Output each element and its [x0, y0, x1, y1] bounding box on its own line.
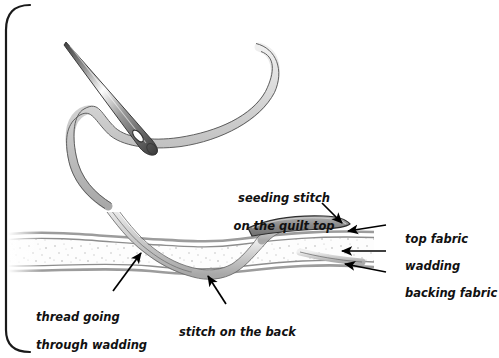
label-thread-line1: thread going	[36, 310, 120, 324]
illustration-canvas: seeding stitch on the quilt top top fabr…	[0, 0, 499, 358]
label-backing-fabric-text: backing fabric	[405, 286, 497, 300]
arrow-top-fabric	[348, 225, 386, 231]
label-backing-fabric: backing fabric	[389, 272, 497, 314]
label-thread-line2: through wadding	[36, 338, 147, 352]
label-stitch-on-the-back: stitch on the back	[163, 311, 296, 353]
label-thread-going-through-wadding: thread going through wadding	[20, 296, 147, 358]
label-seeding-stitch-line2: on the quilt top	[234, 219, 335, 233]
label-stitch-back-text: stitch on the back	[179, 325, 296, 339]
sewing-needle	[64, 42, 159, 157]
label-seeding-stitch-line1: seeding stitch	[238, 191, 330, 205]
label-wadding-text: wadding	[405, 259, 460, 273]
label-seeding-stitch: seeding stitch on the quilt top	[216, 177, 336, 247]
arrow-stitch-on-back	[208, 276, 226, 304]
label-top-fabric-text: top fabric	[405, 232, 468, 246]
